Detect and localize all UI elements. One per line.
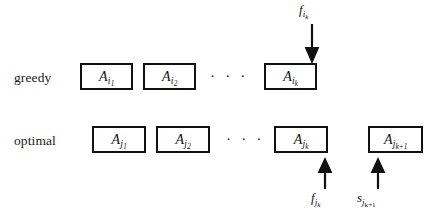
optimal-activity-label-k: Ajk — [294, 132, 308, 146]
greedy-activity-box-k: Aik — [264, 63, 317, 90]
optimal-ellipsis: · · · — [226, 131, 265, 148]
greedy-activity-box-2: Ai2 — [143, 63, 196, 90]
optimal-activity-box-k-plus-1: Ajk+1 — [368, 126, 423, 153]
arrow-down-finish-greedy — [300, 24, 324, 66]
greedy-activity-label-k: Aik — [283, 69, 297, 83]
label-finish-optimal-k: fjk — [311, 190, 320, 206]
optimal-activity-box-k: Ajk — [274, 126, 328, 153]
label-start-optimal-k-plus-1: sjk+1 — [357, 190, 376, 206]
activity-selection-diagram: greedy Ai1 Ai2 · · · Aik fik optimal Aj1… — [0, 0, 440, 220]
label-finish-greedy-k: fik — [299, 2, 308, 18]
optimal-activity-label-1: Aj1 — [112, 132, 127, 146]
optimal-activity-label-2: Aj2 — [176, 132, 191, 146]
arrow-up-start-optimal — [366, 157, 390, 189]
greedy-ellipsis: · · · — [210, 68, 249, 85]
optimal-activity-box-2: Aj2 — [156, 126, 210, 153]
greedy-activity-box-1: Ai1 — [80, 63, 133, 90]
optimal-activity-box-1: Aj1 — [92, 126, 146, 153]
greedy-activity-label-1: Ai1 — [99, 69, 114, 83]
row-label-optimal: optimal — [14, 133, 56, 149]
optimal-activity-label-k-plus-1: Ajk+1 — [384, 132, 407, 146]
arrow-up-finish-optimal — [313, 157, 337, 189]
row-label-greedy: greedy — [14, 70, 51, 86]
greedy-activity-label-2: Ai2 — [162, 69, 177, 83]
